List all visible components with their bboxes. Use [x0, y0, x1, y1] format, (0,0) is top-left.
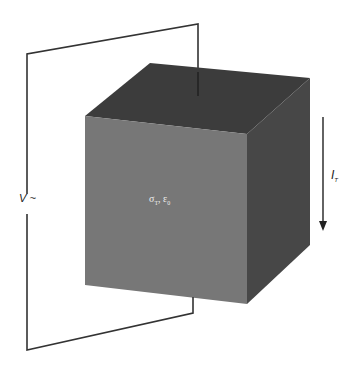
cube-circuit-diagram — [0, 0, 351, 373]
current-arrow-head-icon — [319, 221, 327, 231]
material-properties-label: σT, ε0 — [149, 193, 170, 206]
cube-front-face — [85, 116, 247, 304]
current-label: IT — [331, 168, 338, 183]
voltage-source-label: V ~ — [19, 192, 36, 204]
